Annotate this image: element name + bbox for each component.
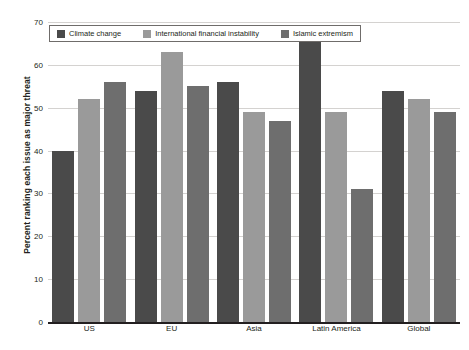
bar-group: US	[48, 22, 130, 322]
bar-group: Asia	[213, 22, 295, 322]
legend-swatch-icon	[281, 30, 289, 38]
bar[interactable]	[135, 91, 157, 322]
bar[interactable]	[299, 39, 321, 322]
bar-group-bars	[213, 22, 295, 322]
y-axis-tick-label: 0	[39, 318, 43, 327]
legend-swatch-icon	[143, 30, 151, 38]
bar-group-bars	[378, 22, 460, 322]
x-axis-category-label: Latin America	[295, 324, 377, 333]
bar-group: EU	[130, 22, 212, 322]
bar[interactable]	[269, 121, 291, 322]
bar[interactable]	[434, 112, 456, 322]
bar-group-bars	[130, 22, 212, 322]
y-axis-tick-label: 40	[34, 146, 43, 155]
y-axis-tick-label: 70	[34, 18, 43, 27]
bar[interactable]	[243, 112, 265, 322]
legend-swatch-icon	[57, 30, 65, 38]
plot-area: 010203040506070 USEUAsiaLatin AmericaGlo…	[48, 22, 460, 322]
bar[interactable]	[382, 91, 404, 322]
legend-label: Islamic extremism	[293, 29, 353, 38]
y-axis-title: Percent ranking each issue as major thre…	[22, 50, 32, 280]
x-axis-category-label: EU	[130, 324, 212, 333]
bar[interactable]	[78, 99, 100, 322]
legend-item[interactable]: Islamic extremism	[281, 29, 353, 38]
y-axis-tick-label: 20	[34, 232, 43, 241]
bar-group-bars	[295, 22, 377, 322]
y-axis-tick-label: 10	[34, 275, 43, 284]
bar-group: Global	[378, 22, 460, 322]
x-axis-category-label: US	[48, 324, 130, 333]
bar[interactable]	[325, 112, 347, 322]
bar-group: Latin America	[295, 22, 377, 322]
bar[interactable]	[187, 86, 209, 322]
x-axis-category-label: Global	[378, 324, 460, 333]
bar[interactable]	[161, 52, 183, 322]
x-axis-category-label: Asia	[213, 324, 295, 333]
legend-label: Climate change	[69, 29, 121, 38]
bar-groups: USEUAsiaLatin AmericaGlobal	[48, 22, 460, 322]
chart-legend: Climate changeInternational financial in…	[49, 25, 361, 42]
bar[interactable]	[104, 82, 126, 322]
bar[interactable]	[217, 82, 239, 322]
legend-item[interactable]: International financial instability	[143, 29, 259, 38]
bar-chart: Percent ranking each issue as major thre…	[0, 0, 469, 350]
legend-item[interactable]: Climate change	[57, 29, 121, 38]
y-axis-tick-label: 60	[34, 60, 43, 69]
legend-label: International financial instability	[155, 29, 259, 38]
bar[interactable]	[351, 189, 373, 322]
y-axis-tick-label: 50	[34, 103, 43, 112]
bar[interactable]	[408, 99, 430, 322]
y-axis-tick-label: 30	[34, 189, 43, 198]
bar-group-bars	[48, 22, 130, 322]
bar[interactable]	[52, 151, 74, 322]
